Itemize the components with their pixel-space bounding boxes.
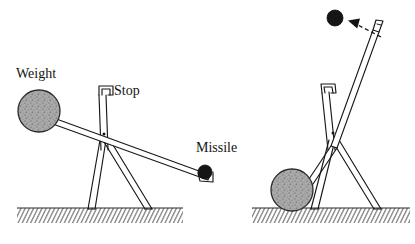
label-stop: Stop	[114, 83, 140, 98]
pivot-point-right	[332, 132, 335, 135]
counterweight-ball-left	[18, 90, 60, 132]
frame-leg-front-right	[311, 140, 335, 209]
missile-ball-left	[198, 165, 212, 179]
pivot-point-left	[103, 133, 106, 136]
counterweight-ball-right	[271, 169, 313, 211]
stop-hook-right	[321, 84, 336, 93]
throwing-arm-right	[331, 30, 379, 148]
frame-leg-front-left	[88, 140, 106, 209]
left-machine-loaded: Weight Stop Missile	[16, 66, 237, 223]
label-weight: Weight	[16, 66, 56, 81]
label-missile: Missile	[196, 140, 237, 155]
right-machine-released	[252, 10, 410, 223]
frame-leg-rear-right	[333, 140, 381, 209]
ground-right	[252, 208, 410, 223]
throwing-arm-left	[39, 113, 210, 180]
ground-left	[17, 208, 183, 223]
trebuchet-figure: Weight Stop Missile	[0, 0, 415, 244]
trebuchet-diagram-canvas: Weight Stop Missile	[0, 0, 415, 244]
stop-hook-left	[99, 86, 113, 95]
missile-ball-right	[327, 10, 343, 26]
